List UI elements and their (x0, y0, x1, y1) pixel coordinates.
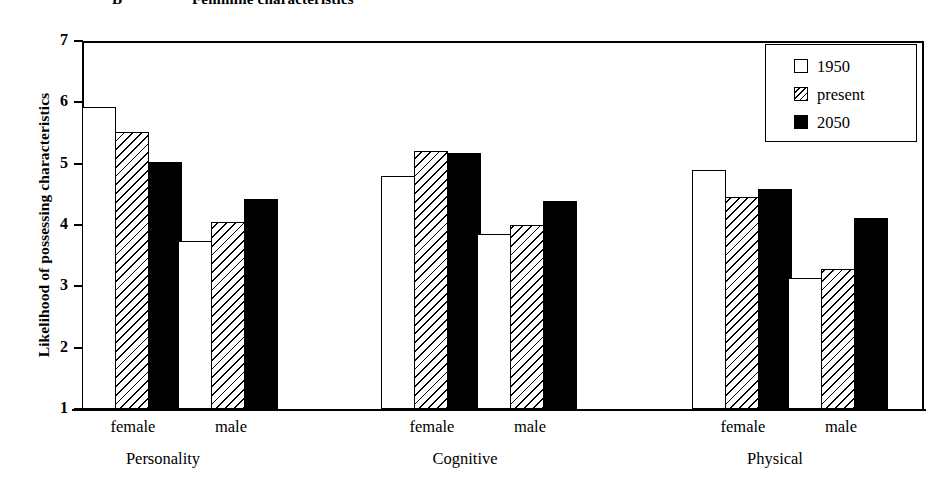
bar-physical-male-2050 (854, 218, 888, 409)
legend-swatch-black-icon (794, 115, 808, 129)
x-axis-sex-label-1: male (171, 418, 291, 436)
bar-cognitive-male-1950 (477, 234, 511, 409)
bar-physical-female-2050 (758, 189, 792, 409)
bar-physical-male-1950 (788, 278, 822, 409)
y-axis-label-1: 1 (42, 400, 68, 416)
y-axis-label-5: 5 (42, 155, 68, 171)
y-axis-label-4: 4 (42, 216, 68, 232)
bar-cognitive-male-present (510, 225, 544, 409)
legend-swatch-white-icon (794, 59, 808, 73)
y-axis-tick-7 (74, 40, 83, 42)
panel-caption-letter: B (112, 0, 122, 8)
bar-cognitive-male-2050 (543, 201, 577, 409)
x-axis-group-label-cognitive: Cognitive (375, 450, 555, 468)
y-axis-label-6: 6 (42, 93, 68, 109)
y-axis-label-7: 7 (42, 32, 68, 48)
legend-item-2050: 2050 (794, 108, 916, 136)
legend-swatch-hatched-icon (794, 87, 808, 101)
legend-label-present: present (817, 86, 865, 103)
y-axis-label-3: 3 (42, 277, 68, 293)
bar-cognitive-female-1950 (381, 176, 415, 409)
bar-cognitive-female-present (414, 151, 448, 409)
bar-personality-male-present (211, 222, 245, 409)
bar-physical-female-present (725, 197, 759, 409)
x-axis-line (72, 409, 926, 411)
bar-cognitive-female-2050 (447, 153, 481, 409)
legend-item-1950: 1950 (794, 52, 916, 80)
legend-label-1950: 1950 (817, 58, 850, 75)
bar-personality-male-2050 (244, 199, 278, 409)
chart-legend: 1950 present 2050 (765, 44, 917, 142)
bar-personality-female-2050 (148, 162, 182, 409)
panel-caption: B Feminine characteristics (0, 0, 935, 13)
x-axis-group-label-physical: Physical (685, 450, 865, 468)
x-axis-sex-label-5: male (781, 418, 901, 436)
bar-physical-female-1950 (692, 170, 726, 409)
y-axis-label-2: 2 (42, 339, 68, 355)
bar-personality-male-1950 (178, 241, 212, 409)
panel-caption-text: Feminine characteristics (192, 0, 354, 8)
chart-figure: B Feminine characteristics Likelihood of… (0, 0, 935, 492)
bar-physical-male-present (821, 269, 855, 409)
x-axis-group-label-personality: Personality (73, 450, 253, 468)
bar-personality-female-present (115, 132, 149, 409)
y-axis-tick-6 (74, 101, 83, 103)
legend-label-2050: 2050 (817, 114, 850, 131)
x-axis-sex-label-3: male (470, 418, 590, 436)
legend-item-present: present (794, 80, 916, 108)
bar-personality-female-1950 (82, 107, 116, 409)
